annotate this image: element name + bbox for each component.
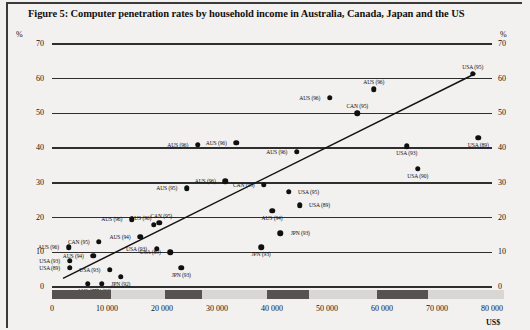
data-point-label: AUS (96) [266, 149, 287, 155]
data-point [91, 253, 97, 259]
y-axis-tick-label: 60 [498, 74, 524, 83]
data-point [151, 222, 157, 228]
data-point-label: AUS (94) [63, 253, 84, 259]
x-axis-band-segment [267, 290, 309, 299]
data-point [85, 281, 91, 287]
x-axis-tick-label: 60 000 [371, 304, 393, 313]
gridline [52, 78, 492, 79]
data-point-label: AUS (95) [156, 185, 177, 191]
data-point-label: AUS (96) [195, 178, 216, 184]
x-axis-band-segment [377, 290, 428, 299]
data-point [294, 149, 300, 155]
page-border-top [6, 2, 522, 4]
data-point [415, 166, 421, 172]
x-axis-band-segment [165, 290, 202, 299]
data-point-label: CAN (95) [68, 239, 90, 245]
data-point-label: AUS (96) [130, 215, 151, 221]
data-point-label: USA (90) [407, 173, 428, 179]
data-point-label: AUS (94) [261, 215, 282, 221]
gridline [52, 113, 492, 114]
plot-area: 010203040506070 010203040506070 AUS (96)… [52, 44, 492, 287]
data-point [107, 267, 113, 273]
x-axis-tick-label: 30 000 [206, 304, 228, 313]
data-point [66, 244, 72, 250]
data-point-label: AUS (94) [109, 234, 130, 240]
data-point [286, 189, 292, 195]
data-point-label: AUS (96) [38, 244, 59, 250]
data-point-label: AUS (96) [363, 79, 384, 85]
data-point-label: JPN (93) [251, 251, 270, 257]
data-point [297, 203, 303, 209]
y-axis-tick-label: 50 [18, 108, 44, 117]
x-axis-tick-label: 70 000 [426, 304, 448, 313]
gridline [52, 182, 492, 183]
x-axis-label: US$ [486, 318, 500, 327]
figure-title: Figure 5: Computer penetration rates by … [28, 8, 508, 19]
data-point-label: JPN (92) [111, 281, 130, 287]
data-point-label: USA (89) [309, 202, 330, 208]
data-point [67, 265, 73, 271]
data-point-label: USA (89) [468, 142, 489, 148]
data-point [261, 182, 267, 188]
data-point [96, 239, 102, 245]
data-point-label: JPN (93) [172, 272, 191, 278]
data-point-label: CAN (95) [150, 213, 172, 219]
y-axis-tick-label: 10 [498, 247, 524, 256]
data-point-label: AUS (96) [101, 216, 122, 222]
data-point [470, 71, 476, 77]
data-point [157, 220, 163, 226]
data-point-label: USA (95) [298, 189, 319, 195]
data-point [269, 208, 275, 214]
data-point [278, 230, 284, 236]
y-axis-tick-label: 0 [18, 282, 44, 291]
data-point-label: CAN (95) [346, 103, 368, 109]
y-axis-tick-label: 20 [18, 213, 44, 222]
data-point [168, 250, 174, 256]
page-border-left [6, 2, 8, 328]
data-point-label: USA (89) [140, 249, 161, 255]
data-point [179, 265, 185, 271]
figure-page: Figure 5: Computer penetration rates by … [0, 0, 530, 330]
data-point [137, 234, 143, 240]
data-point-label: USA (95) [462, 64, 483, 70]
x-axis-tick-label: 50 000 [316, 304, 338, 313]
data-point [355, 111, 361, 117]
data-point [118, 274, 124, 280]
data-point [258, 244, 264, 250]
y-axis-tick-label: 70 [18, 39, 44, 48]
y-axis-tick-label: 40 [18, 143, 44, 152]
data-point [67, 258, 73, 264]
data-point [327, 95, 333, 101]
y-axis-tick-label: 60 [18, 74, 44, 83]
data-point [404, 144, 410, 150]
data-point [184, 185, 190, 191]
data-point [195, 142, 201, 148]
y-axis-tick-label: 50 [498, 108, 524, 117]
y-axis-tick-label: 30 [18, 178, 44, 187]
data-point [371, 86, 377, 92]
y-axis-tick-label: 70 [498, 39, 524, 48]
gridline [52, 252, 492, 253]
data-point-label: AUS (96) [206, 140, 227, 146]
x-axis-tick-label: 40 000 [261, 304, 283, 313]
x-axis-tick-label: 20 000 [151, 304, 173, 313]
x-axis-band [52, 290, 504, 299]
data-point-label: JPN (93) [291, 230, 310, 236]
y-axis-label-left: % [16, 30, 23, 39]
data-point-label: USA (93) [79, 267, 100, 273]
x-axis-band-segment [52, 290, 111, 299]
y-axis-tick-label: 30 [498, 178, 524, 187]
trend-line [52, 44, 492, 287]
data-point [476, 135, 482, 141]
data-point-label: USA (93) [39, 258, 60, 264]
y-axis-label-right: % [500, 30, 507, 39]
data-point [223, 178, 229, 184]
y-axis-tick-label: 20 [498, 213, 524, 222]
data-point-label: USA (93) [396, 150, 417, 156]
gridline [52, 43, 492, 44]
x-axis-tick-label: 10 000 [96, 304, 118, 313]
data-point-label: AUS (96) [299, 95, 320, 101]
x-axis-tick-label: 80 000 [481, 304, 503, 313]
x-axis-tick-label: 0 [50, 304, 54, 313]
data-point-label: USA (89) [39, 265, 60, 271]
